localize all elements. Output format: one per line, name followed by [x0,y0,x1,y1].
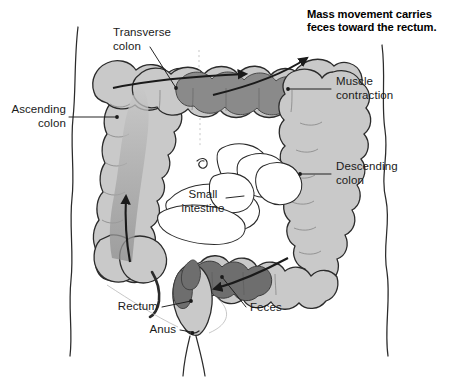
label-rectum: Rectum [92,300,158,314]
anatomy-figure: Mass movement carries feces toward the r… [0,0,462,380]
dot-feces [220,275,224,279]
label-ascending-colon: Ascending colon [0,103,66,130]
dot-rectum [189,299,193,303]
label-anus: Anus [110,323,176,337]
dot-muscle-contraction [286,87,290,91]
dot-descending-colon [298,172,302,176]
label-transverse-colon: Transverse colon [113,26,171,53]
label-small-intestine: Small intestine [172,188,234,215]
feces-rectum-upper-shape [181,260,200,290]
dot-transverse-colon [174,86,178,90]
label-muscle-contraction: Muscle contraction [336,75,393,102]
label-descending-colon: Descending colon [336,160,398,187]
label-feces: Feces [250,301,282,315]
anus-shape [183,331,205,376]
ileum-squiggle [197,158,207,168]
figure-caption: Mass movement carries feces toward the r… [307,8,457,34]
dot-ascending-colon [115,115,119,119]
